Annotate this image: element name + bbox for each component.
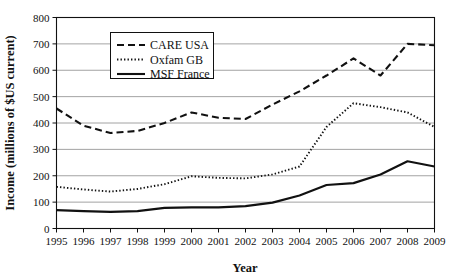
- legend-label-msf-france: MSF France: [150, 67, 210, 81]
- legend-label-oxfam-gb: Oxfam GB: [150, 53, 203, 67]
- y-tick-label: 0: [44, 223, 50, 235]
- x-tick-label: 1997: [100, 235, 123, 247]
- y-tick-labels: 0100200300400500600700800: [33, 12, 50, 235]
- series-line-msf-france: [57, 161, 435, 212]
- y-tick-label: 600: [33, 64, 50, 76]
- x-tick-labels: 1995199619971998199920002001200220032004…: [46, 235, 447, 247]
- x-tick-label: 2005: [316, 235, 339, 247]
- y-tick-label: 100: [33, 196, 50, 208]
- y-tick-label: 200: [33, 170, 50, 182]
- x-axis-title: Year: [233, 261, 258, 275]
- series-line-oxfam-gb: [57, 103, 435, 191]
- x-tick-label: 2009: [424, 235, 447, 247]
- y-tick-label: 700: [33, 38, 50, 50]
- x-tick-label: 2000: [181, 235, 204, 247]
- income-line-chart: 0100200300400500600700800 19951996199719…: [0, 0, 457, 277]
- legend-label-care-usa: CARE USA: [150, 38, 209, 52]
- x-tick-label: 1998: [127, 235, 150, 247]
- x-tick-label: 2003: [262, 235, 285, 247]
- y-tick-marks: [53, 18, 57, 229]
- x-tick-label: 2002: [235, 235, 257, 247]
- x-tick-marks: [57, 229, 435, 233]
- chart-legend: CARE USAOxfam GBMSF France: [111, 33, 214, 82]
- chart-container: 0100200300400500600700800 19951996199719…: [0, 0, 457, 277]
- x-tick-label: 1999: [154, 235, 177, 247]
- x-tick-label: 2007: [370, 235, 393, 247]
- y-tick-label: 800: [33, 12, 50, 24]
- y-axis-title: Income (millions of $US current): [3, 35, 17, 210]
- x-tick-label: 1996: [73, 235, 96, 247]
- y-tick-label: 400: [33, 117, 50, 129]
- y-tick-label: 500: [33, 91, 50, 103]
- x-tick-label: 2001: [208, 235, 230, 247]
- x-tick-label: 2006: [343, 235, 366, 247]
- y-tick-label: 300: [33, 143, 50, 155]
- x-tick-label: 1995: [46, 235, 69, 247]
- x-tick-label: 2004: [289, 235, 312, 247]
- x-tick-label: 2008: [397, 235, 420, 247]
